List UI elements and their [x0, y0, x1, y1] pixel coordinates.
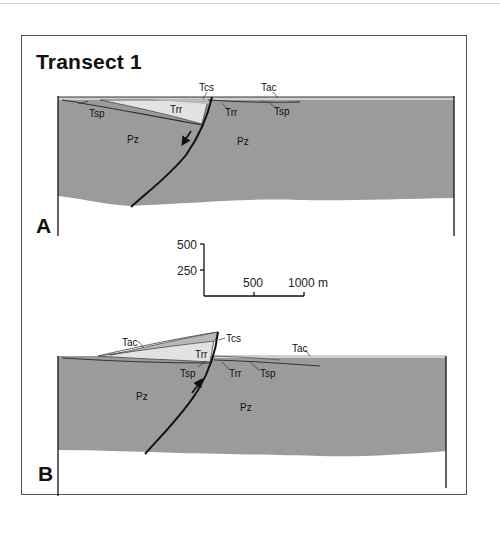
label-tsp-b-right: Tsp [260, 368, 276, 379]
label-trr-b-left: Trr [195, 349, 208, 360]
label-pz-b-left: Pz [136, 391, 148, 402]
label-tcs-a: Tcs [199, 82, 214, 93]
scale-v-250: 250 [177, 264, 197, 278]
label-tac-b-left: Tac [122, 337, 138, 348]
label-trr-a-left: Trr [170, 104, 183, 115]
scale-h-500: 500 [243, 276, 263, 290]
panel-a-section: Tcs Tac Tsp Tsp Trr Trr Pz Pz [58, 82, 454, 236]
label-tcs-b: Tcs [226, 333, 241, 344]
scale-h-1000m: 1000 m [288, 276, 328, 290]
scale-bar: 500 250 500 1000 m [177, 238, 328, 296]
panel-b-section: Tac Tac Tcs Trr Trr Tsp Tsp Pz Pz [58, 332, 446, 496]
label-tsp-a-right: Tsp [274, 106, 290, 117]
panel-a-basement-pz [58, 98, 454, 206]
label-tac-a: Tac [261, 82, 277, 93]
label-pz-a-right: Pz [237, 136, 249, 147]
label-pz-b-right: Pz [240, 402, 252, 413]
panel-b-basement-pz [58, 358, 446, 456]
label-trr-a-right: Trr [225, 107, 238, 118]
cross-section-diagram: Tcs Tac Tsp Tsp Trr Trr Pz Pz 500 250 50… [0, 0, 500, 536]
label-tsp-a-left: Tsp [89, 108, 105, 119]
scale-v-500: 500 [177, 238, 197, 252]
label-tsp-b-left: Tsp [180, 368, 196, 379]
label-pz-a-left: Pz [127, 134, 139, 145]
label-tac-b-right: Tac [292, 343, 308, 354]
label-trr-b-right: Trr [229, 368, 242, 379]
